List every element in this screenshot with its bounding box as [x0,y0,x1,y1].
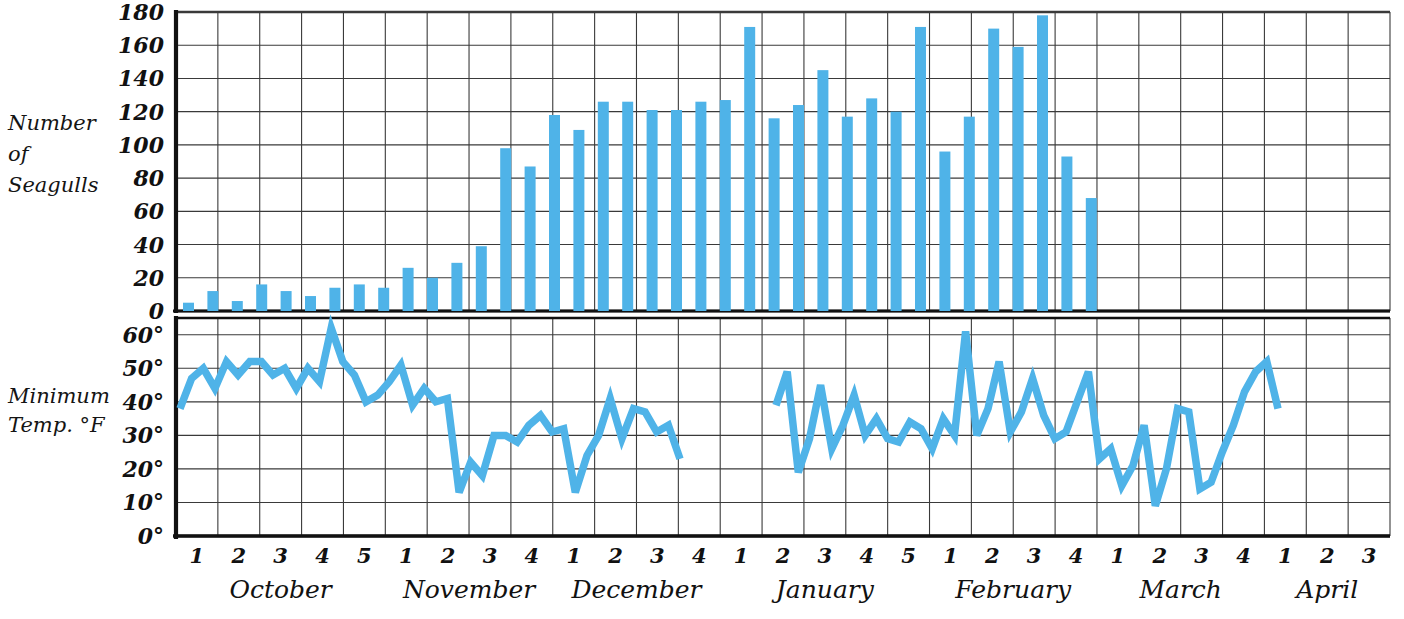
y-tick-label-top: 40 [133,232,164,258]
x-axis-month-label: November [402,575,537,604]
bar [891,112,902,311]
bar [329,288,340,311]
y-axis-title-line: Temp. °F [8,413,106,437]
x-axis-week-labels: 12345123412341234512341234123 [190,543,1377,568]
x-tick-week-label: 2 [775,543,791,568]
x-tick-week-label: 1 [734,543,749,568]
y-tick-label-top: 80 [132,165,164,191]
line-series-min-temp [180,328,1278,506]
x-tick-week-label: 4 [525,543,540,568]
x-tick-week-label: 4 [859,543,874,568]
x-tick-week-label: 1 [1278,543,1293,568]
y-tick-label-top: 0 [149,298,165,324]
bar [427,278,438,311]
bar [1086,198,1097,311]
x-tick-week-label: 3 [1362,543,1377,568]
x-axis-month-label: April [1294,575,1358,604]
bar [378,288,389,311]
y-tick-label-bottom: 10° [122,489,164,515]
bar [866,98,877,311]
y-tick-label-top: 100 [118,132,165,158]
bar [281,291,292,311]
y-axis-title-top: NumberofSeagulls [7,111,99,197]
bar [232,301,243,311]
y-axis-title-line: Number [7,111,98,135]
y-tick-label-top: 120 [118,99,165,125]
y-tick-label-bottom: 0° [138,523,164,549]
bar [1037,15,1048,311]
x-tick-week-label: 2 [984,543,1000,568]
y-tick-label-bottom: 30° [122,422,164,448]
y-tick-label-top: 140 [118,65,165,91]
x-axis-month-label: October [229,575,333,604]
bar [476,246,487,311]
x-tick-week-label: 4 [315,543,330,568]
x-tick-week-label: 1 [943,543,958,568]
y-tick-label-bottom: 20° [121,456,164,482]
x-tick-week-label: 1 [190,543,205,568]
x-tick-week-label: 4 [1069,543,1084,568]
bar [915,27,926,311]
y-tick-label-bottom: 40° [122,389,164,415]
x-axis-month-label: March [1138,575,1222,604]
bar [793,105,804,311]
x-tick-week-label: 1 [566,543,581,568]
bar [720,100,731,311]
bar [305,296,316,311]
y-tick-label-bottom: 60° [122,322,164,348]
x-tick-week-label: 5 [901,543,916,568]
bar [939,152,950,311]
x-tick-week-label: 5 [357,543,372,568]
x-axis-month-label: December [570,575,703,604]
x-axis-month-labels: OctoberNovemberDecemberJanuaryFebruaryMa… [229,575,1358,604]
y-tick-label-bottom: 50° [122,355,164,381]
bar [988,29,999,311]
bar [549,115,560,311]
bar [354,284,365,311]
bar [256,284,267,311]
x-tick-week-label: 3 [650,543,665,568]
chart-canvas: 18016014012010080604020060°50°40°30°20°1… [0,0,1404,619]
bar [647,110,658,311]
x-tick-week-label: 4 [1236,543,1251,568]
bar [403,268,414,311]
bar-series-seagulls [183,15,1097,311]
bar [451,263,462,311]
y-tick-label-top: 20 [132,265,164,291]
y-axis-ticks-top: 180160140120100806040200 [118,0,165,324]
x-tick-week-label: 2 [440,543,456,568]
x-tick-week-label: 3 [818,543,833,568]
y-tick-label-top: 60 [133,198,164,224]
y-tick-label-top: 160 [118,32,165,58]
bar [964,117,975,311]
x-axis-month-label: January [771,575,875,604]
bar [1013,47,1024,311]
y-axis-title-line: Seagulls [8,173,99,197]
y-axis-title-line: Minimum [7,384,110,408]
bar [769,118,780,311]
bar [207,291,218,311]
x-tick-week-label: 3 [1027,543,1042,568]
temp-line-segment-2 [776,331,1278,505]
x-tick-week-label: 2 [1319,543,1335,568]
y-axis-ticks-bottom: 60°50°40°30°20°10°0° [121,322,164,549]
temp-line-segment-1 [180,328,680,492]
x-tick-week-label: 3 [483,543,498,568]
bar [744,27,755,311]
y-axis-title-bottom: MinimumTemp. °F [7,384,110,437]
y-axis-title-line: of [8,142,32,166]
x-tick-week-label: 1 [1111,543,1126,568]
seagull-temperature-chart: 18016014012010080604020060°50°40°30°20°1… [0,0,1404,619]
bar [695,102,706,311]
bar [671,110,682,311]
bar [525,166,536,311]
x-tick-week-label: 2 [230,543,246,568]
x-tick-week-label: 2 [1151,543,1167,568]
bar [183,303,194,311]
x-axis-month-label: February [954,575,1072,604]
bar [500,148,511,311]
x-tick-week-label: 3 [273,543,288,568]
x-tick-week-label: 2 [607,543,623,568]
bar [1061,157,1072,311]
bar [573,130,584,311]
